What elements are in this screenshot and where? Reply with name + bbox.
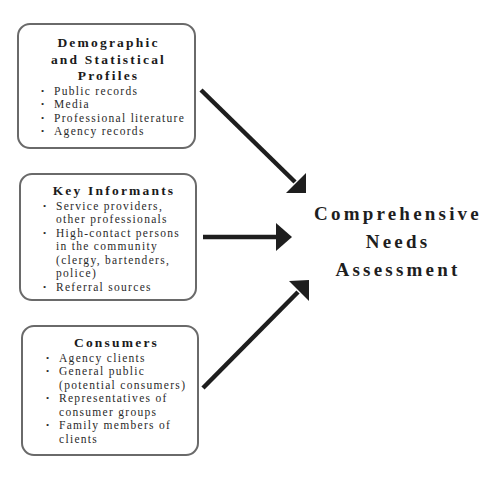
list-item-text: Media (54, 98, 188, 112)
list-item: High-contact persons in the community (c… (39, 227, 189, 281)
title-line: Key Informants (39, 183, 189, 200)
list-item: Service providers, other professionals (39, 200, 189, 227)
source-list: Agency clients General public (potential… (42, 352, 191, 447)
list-item-text: other professionals (56, 213, 189, 227)
list-item-text: Agency records (54, 125, 188, 139)
list-item: Public records (37, 85, 188, 99)
title-line: Consumers (42, 335, 191, 352)
list-item: Agency records (37, 125, 188, 139)
list-item-text: (potential consumers) (59, 379, 191, 393)
list-item-text: Referral sources (56, 281, 189, 295)
list-item: Family members of clients (42, 419, 191, 446)
target-line: Comprehensive (300, 200, 496, 228)
title-line: Demographic (37, 35, 180, 52)
list-item-text: consumer groups (59, 406, 191, 420)
list-item: General public (potential consumers) (42, 365, 191, 392)
list-item-text: Service providers, (56, 200, 189, 214)
list-item: Referral sources (39, 281, 189, 295)
source-list: Service providers, other professionals H… (39, 200, 189, 295)
list-item: Representatives of consumer groups (42, 392, 191, 419)
list-item-text: Agency clients (59, 352, 191, 366)
list-item-text: Public records (54, 85, 188, 99)
list-item-text: Professional literature (54, 112, 188, 126)
target-line: Assessment (300, 256, 496, 284)
source-box-key-informants: Key Informants Service providers, other … (19, 173, 197, 301)
list-item: Professional literature (37, 112, 188, 126)
list-item-text: (clergy, bartenders, (56, 254, 189, 268)
list-item: Agency clients (42, 352, 191, 366)
arrow-down-right-icon (201, 90, 306, 193)
list-item-text: High-contact persons (56, 227, 189, 241)
list-item-text: in the community (56, 240, 189, 254)
source-box-demographic-profiles: Demographic and Statistical Profiles Pub… (17, 23, 196, 149)
box-title: Consumers (42, 335, 191, 352)
list-item-text: General public (59, 365, 191, 379)
source-box-consumers: Consumers Agency clients General public … (21, 325, 199, 456)
arrow-right-icon (203, 223, 292, 251)
title-line: and Statistical (37, 52, 180, 69)
list-item-text: Family members of (59, 419, 191, 433)
target-label-comprehensive-needs-assessment: Comprehensive Needs Assessment (300, 200, 496, 284)
list-item-text: police) (56, 267, 189, 281)
source-list: Public records Media Professional litera… (37, 85, 188, 139)
list-item-text: clients (59, 433, 191, 447)
box-title: Key Informants (39, 183, 189, 200)
arrow-up-right-icon (203, 280, 309, 388)
box-title: Demographic and Statistical Profiles (37, 35, 188, 85)
list-item-text: Representatives of (59, 392, 191, 406)
title-line: Profiles (37, 68, 180, 85)
target-line: Needs (300, 228, 496, 256)
list-item: Media (37, 98, 188, 112)
